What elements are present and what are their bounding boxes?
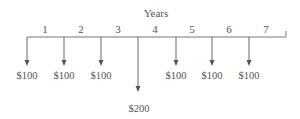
arrow-head-icon	[99, 60, 104, 66]
cash-flow-amount-3: $200	[129, 103, 150, 114]
year-label-1: 1	[42, 24, 48, 35]
year-label-2: 2	[78, 24, 84, 35]
cash-flow-amount-6: $100	[239, 70, 260, 81]
cash-flow-amount-4: $100	[166, 70, 187, 81]
year-label-7: 7	[263, 24, 269, 35]
arrow-head-icon	[210, 60, 215, 66]
year-label-4: 4	[152, 24, 158, 35]
year-label-5: 5	[189, 24, 195, 35]
year-label-3: 3	[115, 24, 121, 35]
arrow-head-icon	[25, 60, 30, 66]
cash-flow-diagram: Years 1 2 3 4 5 6 7 $100 $100 $100 $200 …	[0, 0, 300, 119]
arrow-head-icon	[136, 86, 141, 92]
arrow-head-icon	[62, 60, 67, 66]
cash-flow-amount-5: $100	[202, 70, 223, 81]
arrow-head-icon	[174, 60, 179, 66]
cash-flow-amount-2: $100	[91, 70, 112, 81]
cash-flow-amount-0: $100	[17, 70, 38, 81]
year-label-6: 6	[226, 24, 232, 35]
arrow-head-icon	[247, 60, 252, 66]
axis-title: Years	[144, 8, 169, 19]
cash-flow-amount-1: $100	[54, 70, 75, 81]
